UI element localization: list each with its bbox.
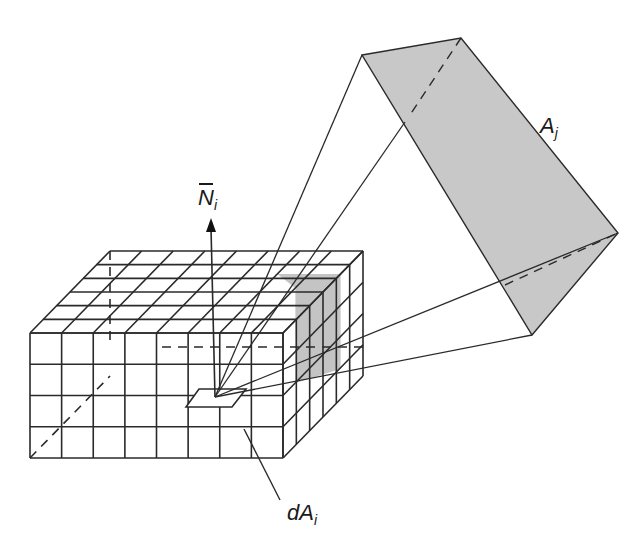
normal-label: Ni	[198, 187, 217, 212]
differential-area-label-sub: i	[314, 512, 317, 528]
hemicube	[30, 251, 363, 500]
normal-label-main: N	[198, 185, 214, 210]
target-patch-label-sub: j	[555, 125, 558, 141]
normal-vector-arrow	[206, 218, 216, 397]
differential-area-label: dAi	[287, 502, 317, 527]
target-patch-aj	[362, 38, 618, 335]
differential-area-label-main: dA	[287, 500, 314, 525]
hemicube-diagram	[0, 0, 638, 546]
normal-label-sub: i	[214, 197, 217, 213]
target-patch-label: Aj	[540, 115, 558, 140]
target-patch-label-main: A	[540, 113, 555, 138]
normal-overbar	[199, 183, 213, 185]
